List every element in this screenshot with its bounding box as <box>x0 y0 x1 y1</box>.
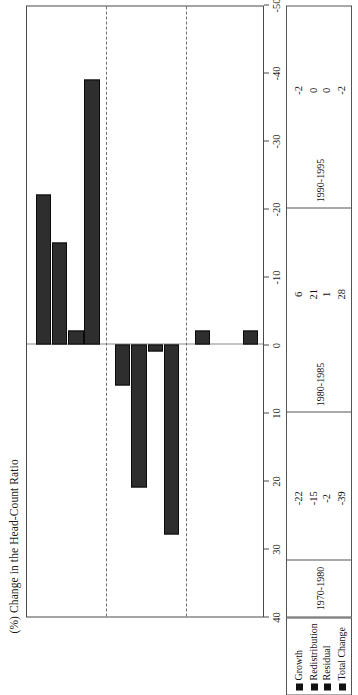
axis-tick-label: 40 <box>271 612 282 623</box>
legend-item[interactable]: Residual <box>322 645 332 690</box>
table-column-rule <box>287 207 351 208</box>
bar <box>52 242 67 344</box>
table-column-header: 1970-1980 <box>315 566 326 609</box>
group-separator <box>186 6 187 616</box>
legend-item-label: Growth <box>294 649 304 680</box>
table-cell: -2 <box>293 85 304 94</box>
axis-tick-label: 20 <box>271 476 282 487</box>
axis-tick-mark <box>264 616 269 617</box>
bar <box>195 330 210 344</box>
bar <box>36 194 51 344</box>
legend-item-label: Residual <box>322 645 332 680</box>
axis-tick-label: 30 <box>271 544 282 555</box>
axis-tick-label: 0 <box>271 342 282 347</box>
axis-tick-label: -40 <box>271 66 282 80</box>
legend-swatch-icon <box>324 683 331 690</box>
axis-tick-mark <box>264 72 269 73</box>
table-cell: 28 <box>336 289 347 300</box>
legend-swatch-icon <box>296 683 303 690</box>
table-cell: -2 <box>336 85 347 94</box>
axis-tick-mark <box>264 344 269 345</box>
bar <box>84 79 99 344</box>
axis-tick-label: -30 <box>271 134 282 148</box>
bar <box>115 344 130 385</box>
legend-item-label: Total Change <box>337 627 347 680</box>
bar <box>243 330 258 344</box>
legend-item[interactable]: Growth <box>294 649 304 690</box>
chart-title: (%) Change in the Head-Count Ratio <box>8 459 20 633</box>
plot-area <box>26 5 264 617</box>
table-column-header: 1980-1985 <box>315 362 326 405</box>
table-cell: -39 <box>336 491 347 505</box>
table-cell: -15 <box>308 491 319 505</box>
legend-swatch-icon <box>311 683 318 690</box>
table-cell: 6 <box>293 291 304 296</box>
table-cell: 1 <box>321 291 332 296</box>
table-cell: -2 <box>321 493 332 502</box>
axis-tick-label: -10 <box>271 270 282 284</box>
bar <box>148 344 163 351</box>
bar <box>68 330 83 344</box>
table-grid: 1970-19801980-19851990-1995-226-2-15210-… <box>286 5 352 617</box>
table-cell: 0 <box>308 87 319 92</box>
axis-tick-label: -50 <box>271 0 282 12</box>
legend-item[interactable]: Total Change <box>337 627 347 690</box>
axis-tick-mark <box>264 548 269 549</box>
chart-figure: (%) Change in the Head-Count Ratio 40302… <box>0 0 358 695</box>
axis-tick-label: -20 <box>271 202 282 216</box>
rotated-figure-frame: (%) Change in the Head-Count Ratio 40302… <box>0 0 358 695</box>
bar <box>164 344 179 534</box>
group-separator <box>106 6 107 616</box>
axis-tick-label: 10 <box>271 408 282 419</box>
axis-tick-mark <box>264 412 269 413</box>
legend-item[interactable]: Redistribution <box>309 623 319 690</box>
table-cell: 0 <box>321 87 332 92</box>
table-column-rule <box>287 411 351 412</box>
table-header-rule <box>287 559 351 560</box>
table-cell: 21 <box>308 289 319 300</box>
legend: GrowthRedistributionResidualTotal Change <box>286 617 352 695</box>
data-table: GrowthRedistributionResidualTotal Change… <box>286 5 352 695</box>
axis-tick-mark <box>264 480 269 481</box>
legend-swatch-icon <box>339 683 346 690</box>
axis-tick-mark <box>264 140 269 141</box>
axis-tick-mark <box>264 208 269 209</box>
table-column-header: 1990-1995 <box>315 158 326 201</box>
axis-tick-mark <box>264 276 269 277</box>
bar <box>131 344 146 487</box>
legend-item-label: Redistribution <box>309 623 319 680</box>
axis-tick-mark <box>264 4 269 5</box>
table-cell: -22 <box>293 491 304 505</box>
